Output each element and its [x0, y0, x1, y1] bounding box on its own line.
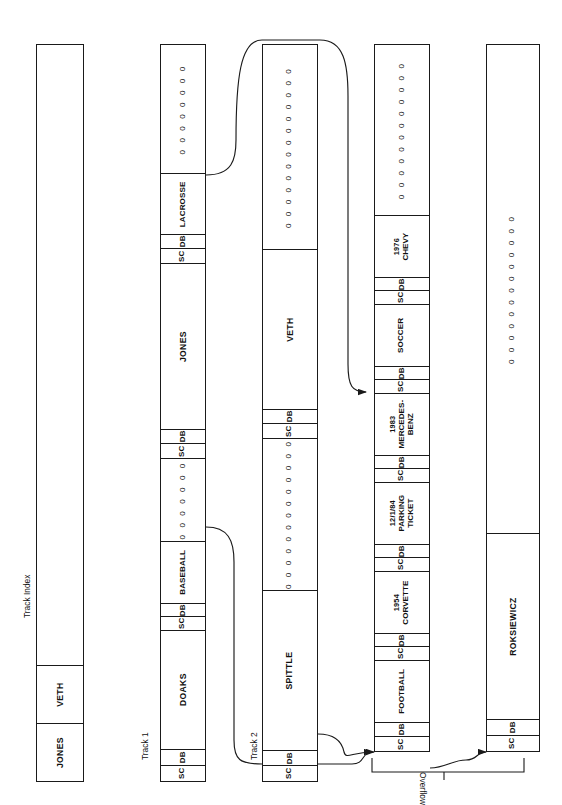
- connector-veth-to-overflow2: [430, 752, 486, 768]
- cell-label: SC: [179, 445, 188, 456]
- cell-ovf2-sc[interactable]: SC: [487, 735, 539, 751]
- cell-track-2-db-b[interactable]: DB: [263, 409, 317, 423]
- cell-label: BASEBALL: [179, 550, 188, 595]
- cell-label: FOOTBALL: [398, 669, 407, 714]
- cell-ovf1-db-c[interactable]: DB: [375, 544, 429, 557]
- cell-ovf1-mercedes-benz[interactable]: 1983 MERCEDES- BENZ: [375, 393, 429, 455]
- column-track-1[interactable]: SC DB DOAKS SC DB BASEBALL 0 0 0 0 0 0 0…: [160, 44, 206, 782]
- overflow-bracket: [372, 758, 524, 780]
- cell-track-index-2[interactable]: [37, 45, 83, 665]
- cell-record: 1976 CHEVY: [393, 233, 410, 261]
- cell-ovf1-soccer[interactable]: SOCCER: [375, 304, 429, 366]
- cell-record: 1954 CORVETTE: [393, 581, 410, 625]
- cell-label: 0 0 0 0 0 0 0 0 0 0 0 0 0 0: [286, 66, 295, 227]
- cell-label: DB: [286, 411, 295, 423]
- cell-label: SC: [398, 648, 407, 659]
- cell-label: DB: [179, 431, 188, 443]
- cell-label: DB: [179, 236, 188, 248]
- cell-ovf2-roksiewicz[interactable]: ROKSIEWICZ: [487, 533, 539, 719]
- cell-label: SC: [398, 738, 407, 749]
- column-track-index[interactable]: JONES VETH: [36, 44, 84, 782]
- cell-track-1-sc-c[interactable]: SC: [161, 443, 205, 458]
- cell-ovf1-db-b[interactable]: DB: [375, 633, 429, 646]
- cell-track-index-0[interactable]: JONES: [37, 723, 83, 781]
- cell-label: CORVETTE: [402, 581, 411, 625]
- cell-label: 0 0 0 0 0 0 0: [179, 461, 188, 539]
- cell-track-1-db-c[interactable]: DB: [161, 429, 205, 443]
- caption-track-2: Track 2: [249, 732, 259, 760]
- cell-label: SC: [179, 250, 188, 261]
- cell-label: DB: [179, 604, 188, 616]
- cell-label: 0 0 0 0 0 0 0 0 0 0 0 0: [398, 61, 407, 199]
- caption-track-index: Track Index: [22, 575, 32, 618]
- cell-label: 0 0 0 0 0 0 0 0 0 0 0 0 0: [286, 440, 295, 590]
- cell-ovf2-db[interactable]: DB: [487, 719, 539, 735]
- cell-track-1-zeros-a[interactable]: 0 0 0 0 0 0 0: [161, 458, 205, 541]
- cell-label: CHEVY: [402, 233, 411, 261]
- cell-label: 0 0 0 0 0 0 0 0: [179, 64, 188, 154]
- cell-label: SC: [398, 470, 407, 481]
- cell-track-2-zeros-a[interactable]: 0 0 0 0 0 0 0 0 0 0 0 0 0: [263, 438, 317, 590]
- column-overflow-2[interactable]: SC DB ROKSIEWICZ 0 0 0 0 0 0 0 0 0 0 0 0…: [486, 44, 540, 752]
- cell-label: ROKSIEWICZ: [508, 597, 517, 655]
- cell-record: 12/1/84 PARKING TICKET: [389, 495, 415, 532]
- cell-track-1-db-d[interactable]: DB: [161, 234, 205, 248]
- cell-track-2-spittle[interactable]: SPITTLE: [263, 590, 317, 750]
- cell-ovf1-football[interactable]: FOOTBALL: [375, 660, 429, 722]
- cell-track-2-zeros-b[interactable]: 0 0 0 0 0 0 0 0 0 0 0 0 0 0: [263, 45, 317, 249]
- cell-track-1-zeros-b[interactable]: 0 0 0 0 0 0 0 0: [161, 45, 205, 173]
- cell-track-1-doaks[interactable]: DOAKS: [161, 630, 205, 749]
- cell-label: DOAKS: [178, 674, 187, 707]
- cell-track-index-1[interactable]: VETH: [37, 665, 83, 723]
- cell-year: 1983: [389, 416, 397, 433]
- cell-label: DB: [398, 634, 407, 646]
- cell-track-1-db-b[interactable]: DB: [161, 603, 205, 616]
- cell-track-1-baseball[interactable]: BASEBALL: [161, 541, 205, 603]
- cell-track-1-sc-d[interactable]: SC: [161, 248, 205, 263]
- cell-label: SC: [179, 618, 188, 629]
- cell-label: DB: [286, 752, 295, 764]
- cell-label: SC: [286, 768, 295, 779]
- cell-label: DB: [398, 456, 407, 468]
- cell-ovf1-zeros[interactable]: 0 0 0 0 0 0 0 0 0 0 0 0: [375, 45, 429, 215]
- cell-ovf1-db-f[interactable]: DB: [375, 277, 429, 290]
- cell-year: 1976: [393, 238, 401, 255]
- cell-track-2-sc-a[interactable]: SC: [263, 765, 317, 781]
- cell-label: VETH: [55, 682, 64, 706]
- cell-track-2-veth[interactable]: VETH: [263, 249, 317, 409]
- cell-ovf1-chevy[interactable]: 1976 CHEVY: [375, 215, 429, 277]
- cell-track-1-lacrosse[interactable]: LACROSSE: [161, 173, 205, 234]
- cell-label: VETH: [285, 317, 294, 341]
- cell-label: DB: [398, 367, 407, 379]
- cell-ovf1-parking-ticket[interactable]: 12/1/84 PARKING TICKET: [375, 482, 429, 544]
- cell-track-2-db-a[interactable]: DB: [263, 750, 317, 765]
- column-track-2[interactable]: SC DB SPITTLE 0 0 0 0 0 0 0 0 0 0 0 0 0 …: [262, 44, 318, 782]
- cell-ovf1-db-d[interactable]: DB: [375, 455, 429, 468]
- cell-track-1-db-a[interactable]: DB: [161, 749, 205, 765]
- cell-ovf1-corvette[interactable]: 1954 CORVETTE: [375, 571, 429, 633]
- cell-ovf1-sc-b[interactable]: SC: [375, 646, 429, 660]
- cell-track-1-jones[interactable]: JONES: [161, 263, 205, 429]
- cell-label: PARKING TICKET: [397, 495, 415, 532]
- cell-ovf1-sc-f[interactable]: SC: [375, 290, 429, 304]
- cell-ovf1-sc-e[interactable]: SC: [375, 379, 429, 393]
- cell-ovf1-sc-a[interactable]: SC: [375, 736, 429, 751]
- cell-label: LACROSSE: [179, 181, 188, 227]
- cell-ovf2-zeros[interactable]: 0 0 0 0 0 0 0 0 0 0 0 0 0: [487, 45, 539, 533]
- cell-track-1-sc-a[interactable]: SC: [161, 765, 205, 781]
- cell-ovf1-sc-c[interactable]: SC: [375, 557, 429, 571]
- connector-spittle-to-overflow: [318, 734, 372, 756]
- cell-track-2-sc-b[interactable]: SC: [263, 423, 317, 438]
- cell-ovf1-db-e[interactable]: DB: [375, 366, 429, 379]
- cell-ovf1-db-a[interactable]: DB: [375, 722, 429, 736]
- cell-label: SPITTLE: [285, 652, 294, 690]
- cell-label: SC: [398, 381, 407, 392]
- cell-label: SC: [179, 768, 188, 779]
- column-overflow-1[interactable]: SC DB FOOTBALL SC DB 1954 CORVETTE SC DB…: [374, 44, 430, 752]
- cell-label: DB: [179, 752, 188, 764]
- cell-label: JONES: [55, 737, 64, 768]
- cell-label: SC: [398, 559, 407, 570]
- cell-ovf1-sc-d[interactable]: SC: [375, 468, 429, 482]
- cell-track-1-sc-b[interactable]: SC: [161, 616, 205, 630]
